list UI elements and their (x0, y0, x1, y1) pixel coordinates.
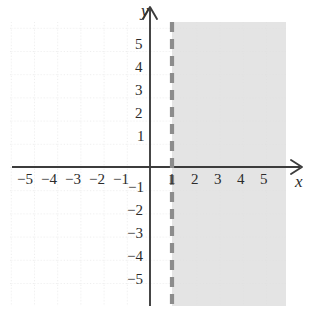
x-tick-label-1: 1 (168, 172, 176, 187)
y-tick-label-2: 2 (135, 106, 143, 121)
y-tick-label-5: 5 (135, 37, 143, 52)
x-tick-label-neg-2: −2 (89, 172, 105, 187)
y-tick-label-3: 3 (135, 83, 143, 98)
y-tick-label-neg-1: −1 (128, 180, 144, 195)
y-tick-label-1: 1 (137, 129, 145, 144)
y-tick-label-4: 4 (135, 60, 143, 75)
x-tick-label-neg-1: −1 (113, 172, 129, 187)
y-tick-label-neg-5: −5 (127, 272, 143, 287)
y-tick-label-neg-2: −2 (127, 203, 143, 218)
solution-region-shading (172, 22, 286, 306)
coordinate-plane-figure: −5 −4 −3 −2 −1 1 2 3 4 5 5 4 3 2 1 −1 −2… (0, 0, 312, 313)
x-tick-label-2: 2 (191, 172, 199, 187)
x-tick-label-5: 5 (260, 172, 268, 187)
x-axis-name-label: x (295, 173, 303, 190)
y-tick-label-neg-3: −3 (127, 226, 143, 241)
x-tick-label-4: 4 (237, 172, 245, 187)
graph-canvas (0, 0, 312, 313)
x-tick-label-neg-5: −5 (17, 172, 33, 187)
x-tick-label-3: 3 (214, 172, 222, 187)
y-axis-name-label: y (141, 2, 149, 19)
y-tick-label-neg-4: −4 (127, 249, 143, 264)
x-tick-label-neg-4: −4 (41, 172, 57, 187)
x-tick-label-neg-3: −3 (65, 172, 81, 187)
